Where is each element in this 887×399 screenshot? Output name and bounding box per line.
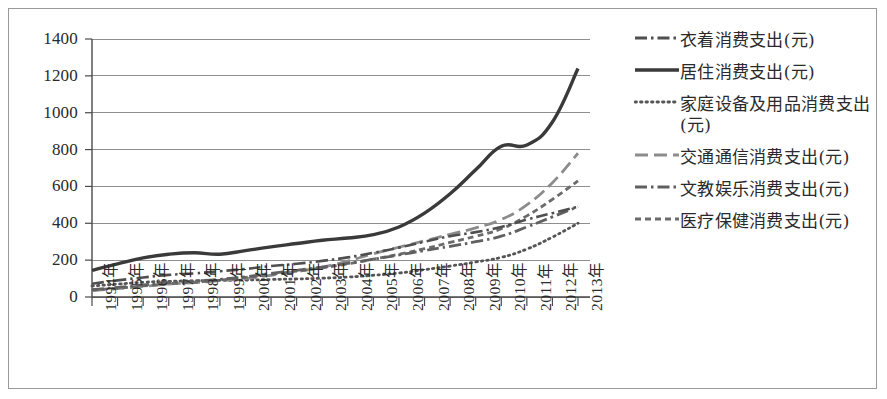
dashdot-line-icon	[634, 182, 680, 198]
legend-label: 文教娱乐消费支出(元)	[680, 179, 850, 201]
legend-item[interactable]: 家庭设备及用品消费支出(元)	[634, 94, 884, 138]
x-axis-tick-label: 2004年	[354, 262, 376, 312]
x-axis-tick-label: 2007年	[431, 262, 453, 312]
longdash-line-icon	[634, 150, 680, 166]
y-axis-tick-label: 1000	[18, 104, 78, 121]
chart-legend: 衣着消费支出(元)居住消费支出(元)家庭设备及用品消费支出(元)交通通信消费支出…	[634, 30, 884, 242]
y-axis-tick-label: 400	[18, 214, 78, 231]
y-axis-tick-label: 800	[18, 141, 78, 158]
x-axis-tick-label: 2010年	[507, 262, 529, 312]
y-axis-tick-label: 600	[18, 177, 78, 194]
x-axis-tick-label: 2013年	[584, 262, 606, 312]
legend-item[interactable]: 居住消费支出(元)	[634, 62, 884, 84]
x-axis-tick-label: 1997年	[175, 262, 197, 312]
legend-label: 家庭设备及用品消费支出(元)	[680, 94, 884, 138]
shortdash-line-icon	[634, 214, 680, 230]
x-axis-tick-label: 2005年	[379, 262, 401, 312]
dashdot-line-icon	[634, 33, 680, 49]
x-axis-tick-label: 1996年	[149, 262, 171, 312]
y-axis-tick-label: 1200	[18, 67, 78, 84]
x-axis-tick-label: 1994年	[98, 262, 120, 312]
x-axis-tick-label: 2001年	[277, 262, 299, 312]
legend-item[interactable]: 衣着消费支出(元)	[634, 30, 884, 52]
plot-area: 0200400600800100012001400 1994年1995年1996…	[0, 0, 620, 399]
y-axis-tick-label: 0	[18, 288, 78, 305]
line-chart-svg	[0, 0, 620, 399]
legend-label: 居住消费支出(元)	[680, 62, 815, 84]
y-axis-tick-label: 1400	[18, 30, 78, 47]
x-axis-tick-label: 2012年	[558, 262, 580, 312]
legend-item[interactable]: 文教娱乐消费支出(元)	[634, 179, 884, 201]
x-axis-tick-label: 2009年	[482, 262, 504, 312]
legend-item[interactable]: 交通通信消费支出(元)	[634, 147, 884, 169]
x-axis-tick-label: 1998年	[200, 262, 222, 312]
solid-line-icon	[634, 65, 680, 81]
chart-page: 0200400600800100012001400 1994年1995年1996…	[0, 0, 887, 399]
legend-item[interactable]: 医疗保健消费支出(元)	[634, 211, 884, 233]
x-axis-tick-label: 2011年	[533, 262, 555, 311]
x-axis-tick-label: 1999年	[226, 262, 248, 312]
x-axis-tick-label: 2006年	[405, 262, 427, 312]
legend-label: 交通通信消费支出(元)	[680, 147, 850, 169]
x-axis-tick-label: 2000年	[251, 262, 273, 312]
x-axis-tick-label: 2002年	[303, 262, 325, 312]
dotted-line-icon	[634, 97, 680, 113]
x-axis-tick-label: 2003年	[328, 262, 350, 312]
legend-label: 医疗保健消费支出(元)	[680, 211, 850, 233]
legend-label: 衣着消费支出(元)	[680, 30, 815, 52]
y-axis-tick-label: 200	[18, 251, 78, 268]
x-axis-tick-label: 1995年	[124, 262, 146, 312]
x-axis-tick-label: 2008年	[456, 262, 478, 312]
series-line	[92, 68, 578, 270]
